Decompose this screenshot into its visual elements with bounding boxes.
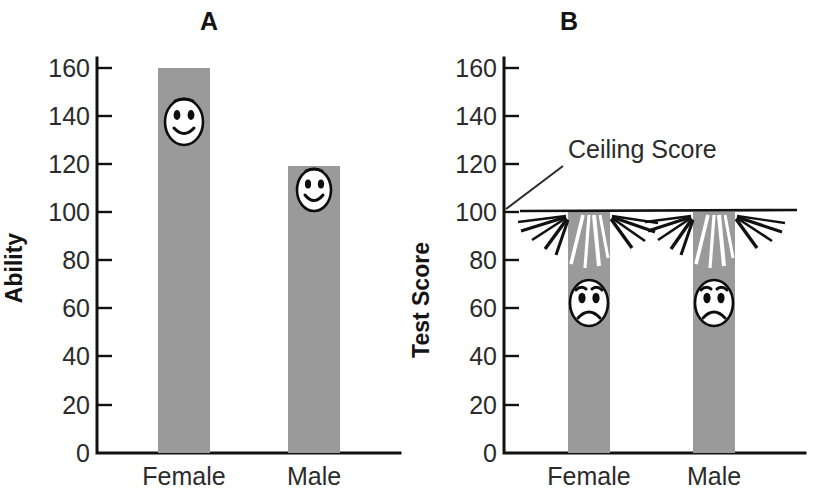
y-tick-label: 40 [62, 342, 90, 370]
panel-b-y-axis-title: Test Score [408, 242, 434, 358]
panel-a-axes [97, 58, 400, 453]
panel-b-tick-labels: 160 140 120 100 80 60 40 20 0 [455, 54, 497, 467]
y-tick-label: 120 [455, 150, 497, 178]
panel-b-letter: B [560, 7, 578, 35]
panel-a-ticks [97, 68, 112, 405]
panel-b-ticks [504, 68, 519, 405]
figure-root: A 160 140 120 100 80 60 [0, 0, 817, 504]
y-tick-label: 80 [62, 246, 90, 274]
y-tick-label: 160 [48, 54, 90, 82]
sad-face-icon [695, 280, 733, 326]
y-tick-label: 60 [469, 294, 497, 322]
y-tick-label: 100 [48, 198, 90, 226]
panel-b: B 160 140 120 100 80 60 40 20 [408, 7, 805, 490]
y-tick-label: 60 [62, 294, 90, 322]
figure-canvas: A 160 140 120 100 80 60 [0, 0, 817, 504]
y-tick-label: 100 [455, 198, 497, 226]
x-category-label-male: Male [287, 462, 341, 490]
y-tick-label: 0 [483, 439, 497, 467]
ceiling-score-line [520, 210, 797, 211]
panel-a-y-axis-title: Ability [1, 233, 27, 303]
x-category-label-male: Male [687, 462, 741, 490]
ceiling-score-label: Ceiling Score [568, 135, 717, 163]
panel-a: A 160 140 120 100 80 60 [1, 7, 400, 490]
y-tick-label: 40 [469, 342, 497, 370]
panel-a-letter: A [200, 7, 218, 35]
y-tick-label: 20 [62, 391, 90, 419]
happy-face-icon [165, 99, 203, 145]
y-tick-label: 160 [455, 54, 497, 82]
panel-a-tick-labels: 160 140 120 100 80 60 40 20 0 [48, 54, 90, 467]
x-category-label-female: Female [142, 462, 225, 490]
y-tick-label: 20 [469, 391, 497, 419]
y-tick-label: 120 [48, 150, 90, 178]
sad-face-icon [570, 280, 608, 326]
y-tick-label: 140 [48, 102, 90, 130]
ceiling-score-leader-line [506, 166, 563, 209]
panel-b-axes [504, 58, 805, 453]
y-tick-label: 80 [469, 246, 497, 274]
y-tick-label: 140 [455, 102, 497, 130]
x-category-label-female: Female [547, 462, 630, 490]
y-tick-label: 0 [76, 439, 90, 467]
happy-face-icon [297, 169, 331, 211]
